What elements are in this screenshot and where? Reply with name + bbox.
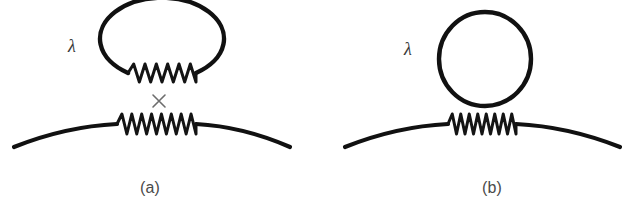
propagator-right-arc xyxy=(196,124,290,147)
circle-loop-shape xyxy=(439,12,531,106)
propagator-spring-zigzag xyxy=(117,114,196,134)
propagator-left-arc xyxy=(14,124,117,147)
panel-b-circle-loop xyxy=(439,12,531,106)
panel-a-oval-loop-with-spring xyxy=(100,0,224,82)
panel-caption-a: (a) xyxy=(140,179,160,196)
propagator-right-arc xyxy=(516,124,620,147)
panel-b-curved-propagator-line xyxy=(345,114,620,147)
loop-spring-zigzag xyxy=(128,64,196,82)
propagator-left-arc xyxy=(345,124,448,147)
panel-a-cross-vertex xyxy=(153,95,165,107)
coupling-constant-label: λ xyxy=(67,36,76,56)
oval-loop-arc xyxy=(100,0,224,73)
panel-caption-b: (b) xyxy=(482,179,502,196)
feynman-diagram-canvas: λ (a) λ (b) xyxy=(0,0,627,213)
figure-root: λ (a) λ (b) xyxy=(0,0,627,213)
coupling-constant-label: λ xyxy=(403,39,412,59)
panel-a: λ (a) xyxy=(14,0,290,196)
cross-vertex-icon xyxy=(153,95,165,107)
propagator-spring-zigzag xyxy=(448,114,516,134)
panel-a-curved-propagator-line xyxy=(14,114,290,147)
panel-b: λ (b) xyxy=(345,12,620,196)
